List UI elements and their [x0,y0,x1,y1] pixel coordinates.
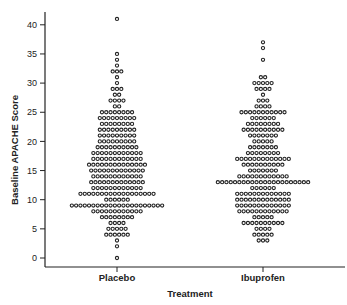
data-point [257,134,260,137]
data-point [126,198,129,201]
data-point [253,134,256,137]
data-point [96,192,99,195]
data-point [120,140,123,143]
data-point [118,186,121,189]
data-point [251,175,254,178]
data-point [75,204,78,207]
data-point [130,163,133,166]
data-point [90,169,93,172]
data-point [261,140,264,143]
data-point [261,239,264,242]
data-point [124,169,127,172]
data-point [287,192,290,195]
data-point [259,128,262,131]
data-point [253,233,256,236]
data-point [276,128,279,131]
data-point [113,233,116,236]
data-point [257,99,260,102]
data-point [242,210,245,213]
data-point [111,134,114,137]
data-point [118,163,121,166]
data-point [274,146,277,149]
data-point [294,181,297,184]
data-point [259,181,262,184]
data-point [272,116,275,119]
data-point [161,204,164,207]
data-point [283,198,286,201]
data-point [128,169,131,172]
data-point [92,151,95,154]
data-point [98,181,101,184]
data-point [268,105,271,108]
data-point [105,111,108,114]
data-point [268,116,271,119]
data-point [143,163,146,166]
data-point [109,210,112,213]
data-point [249,204,252,207]
data-point [90,181,93,184]
data-point [122,111,125,114]
data-point [236,204,239,207]
data-point [246,221,249,224]
data-point [118,175,121,178]
dot-plot-chart: 0510152025303540 PlaceboIbuprofen Baseli… [0,0,347,305]
data-point [118,105,121,108]
data-point [79,204,82,207]
data-point [266,157,269,160]
series-ibuprofen [216,41,310,242]
data-point [96,163,99,166]
data-point [135,210,138,213]
data-point [115,245,118,248]
data-point [253,157,256,160]
data-point [133,181,136,184]
data-point [249,198,252,201]
data-point [264,210,267,213]
data-point [107,116,110,119]
data-point [107,169,110,172]
data-point [100,122,103,125]
data-point [126,151,129,154]
y-axis: 0510152025303540 [27,12,45,267]
data-point [240,157,243,160]
data-point [266,146,269,149]
data-point [255,227,258,230]
data-point [279,204,282,207]
data-point [109,157,112,160]
data-point [266,140,269,143]
data-point [259,221,262,224]
data-point [281,175,284,178]
data-point [96,204,99,207]
data-point [264,128,267,131]
data-point [259,87,262,90]
data-point [122,198,125,201]
data-point [130,204,133,207]
data-point [120,70,123,73]
data-point [259,105,262,108]
data-point [246,122,249,125]
data-point [122,146,125,149]
data-point [261,99,264,102]
data-point [287,204,290,207]
data-point [135,163,138,166]
data-point [113,105,116,108]
data-point [257,82,260,85]
data-point [115,76,118,79]
data-point [246,163,249,166]
data-point [279,111,282,114]
data-point [122,221,125,224]
data-point [268,128,271,131]
data-point [111,169,114,172]
data-point [115,169,118,172]
data-point [270,146,273,149]
data-point [92,175,95,178]
data-point [261,216,264,219]
data-point [109,233,112,236]
data-point [268,175,271,178]
data-point [259,210,262,213]
data-point [255,210,258,213]
data-point [261,146,264,149]
data-point [115,256,118,259]
data-point [128,134,131,137]
data-point [100,175,103,178]
data-point [115,17,118,20]
